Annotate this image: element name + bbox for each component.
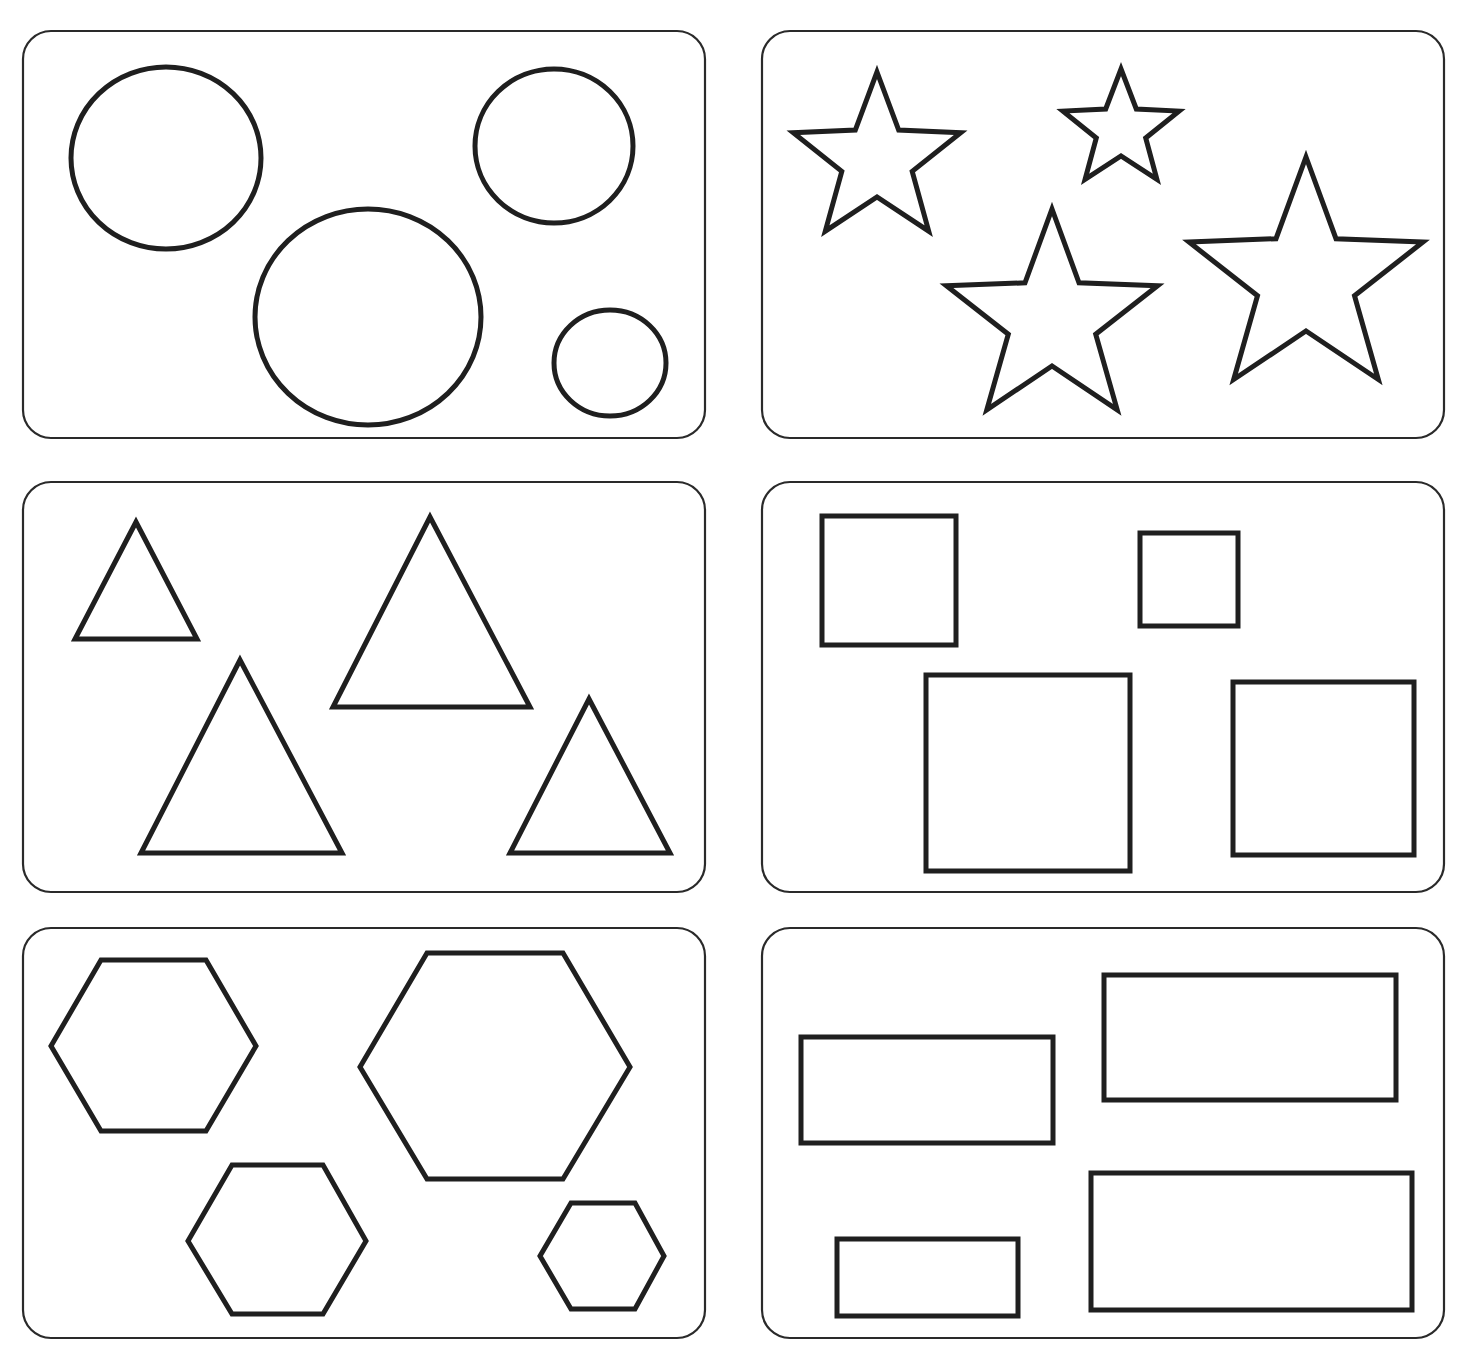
panel-rectangles (762, 928, 1444, 1338)
panel-frame (762, 31, 1444, 438)
panel-circles (23, 31, 705, 438)
panel-triangles (23, 482, 705, 892)
panel-squares (762, 482, 1444, 892)
panel-frame (23, 31, 705, 438)
panel-hexagons (23, 928, 705, 1338)
panel-frame (762, 482, 1444, 892)
shapes-worksheet (0, 0, 1464, 1349)
panel-stars (762, 31, 1444, 438)
